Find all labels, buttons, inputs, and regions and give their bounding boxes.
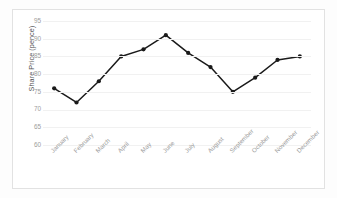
gridline (43, 39, 311, 40)
y-axis-tick-label: 70 (25, 106, 41, 112)
y-axis-tick-label: 90 (25, 36, 41, 42)
y-axis-tick-label: 75 (25, 89, 41, 95)
gridline (43, 127, 311, 128)
data-point-marker (186, 51, 190, 55)
gridline (43, 56, 311, 57)
y-axis-tick-label: 80 (25, 71, 41, 77)
gridline (43, 92, 311, 93)
y-axis-tick-labels: 9590858075706560 (21, 21, 41, 145)
data-point-marker (275, 58, 279, 62)
data-point-marker (97, 79, 101, 83)
y-axis-tick-label: 60 (25, 142, 41, 148)
gridline (43, 21, 311, 22)
gridline (43, 110, 311, 111)
data-point-marker (164, 33, 168, 37)
data-point-marker (141, 47, 145, 51)
chart-frame: Share Price (pence) 9590858075706560 Jan… (12, 9, 325, 189)
y-axis-tick-label: 95 (25, 18, 41, 24)
data-point-marker (52, 86, 56, 90)
y-axis-tick-label: 85 (25, 53, 41, 59)
data-point-marker (74, 100, 78, 104)
data-point-marker (253, 76, 257, 80)
y-axis-tick-label: 65 (25, 124, 41, 130)
data-point-marker (208, 65, 212, 69)
plot-area (43, 21, 311, 145)
gridline (43, 74, 311, 75)
share-price-line-chart: Share Price (pence) 9590858075706560 Jan… (0, 0, 337, 198)
x-axis-tick-labels: JanuaryFebruaryMarchAprilMayJuneJulyAugu… (43, 147, 311, 189)
